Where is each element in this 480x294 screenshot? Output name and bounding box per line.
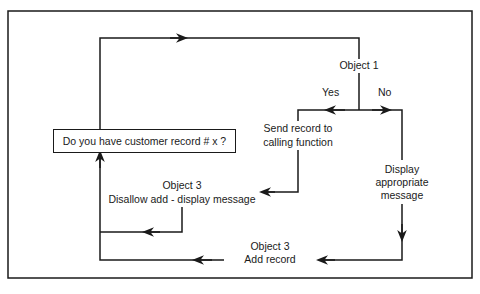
decision-box: Do you have customer record # x ? [53,129,236,153]
disallow-action-label: Disallow add - display message [107,193,257,207]
send-record-line [262,150,298,192]
add-record-line [100,155,224,260]
disallow-line [100,206,182,232]
send-record-line1: Send record to [262,122,334,136]
object1-label: Object 1 [334,59,384,73]
display-message-line3: message [372,189,432,203]
no-label: No [378,86,391,100]
add-record-action-label: Add record [232,253,308,267]
display-message-line [322,204,402,260]
display-message-line1: Display [372,163,432,177]
send-record-line2: calling function [262,136,334,150]
add-record-object-label: Object 3 [240,240,300,254]
loop-line-top [100,38,359,129]
display-message-line2: appropriate [372,176,432,190]
disallow-object-label: Object 3 [152,179,212,193]
yes-label: Yes [322,86,339,100]
decision-question: Do you have customer record # x ? [63,135,226,147]
